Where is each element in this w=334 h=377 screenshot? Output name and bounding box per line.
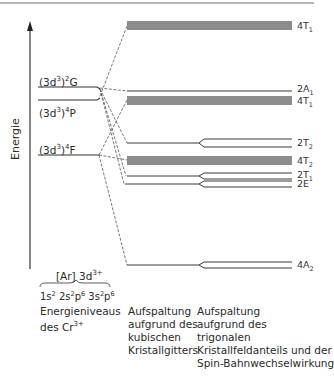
level-label-2T2: 2T2: [297, 138, 313, 152]
energy-axis-label: Energie: [9, 118, 22, 160]
level-label-4F: (3d3)4F: [39, 141, 76, 156]
level-label-4A2: 4A2: [297, 260, 314, 274]
level-label-4T1-lower: 4T1: [297, 96, 313, 110]
caption-left: Energieniveaus des Cr3+: [40, 305, 121, 334]
level-label-4T2: 4T2: [297, 156, 313, 170]
level-4T1-upper-band: [127, 21, 292, 30]
level-2T2-split: [127, 139, 292, 147]
level-2T1-split: [127, 173, 292, 179]
level-label-2E: 2E: [297, 179, 309, 193]
level-label-4P: (3d3)4P: [39, 104, 76, 119]
config-bottom: 1s2 2s2p6 3s2p6: [40, 288, 115, 303]
axis-arrow-icon: [27, 21, 33, 31]
caption-right: Aufspaltung aufgrund des trigonalen Kris…: [197, 305, 334, 370]
caption-middle: Aufspaltung aufgrund des kubischen Krist…: [128, 305, 198, 357]
correlation-lines: [99, 26, 127, 265]
level-label-2G: (3d3)2G: [39, 73, 78, 88]
level-label-4T1-upper: 4T1: [297, 21, 313, 35]
config-top: [Ar] 3d3+: [56, 267, 103, 282]
level-4P-line: [38, 98, 100, 100]
level-4T1-lower-band: [127, 96, 292, 105]
level-4T2-band: [127, 156, 292, 165]
crystal-field-levels: [125, 21, 292, 268]
level-2E-split: [125, 181, 292, 187]
level-4A2-split: [127, 262, 292, 268]
